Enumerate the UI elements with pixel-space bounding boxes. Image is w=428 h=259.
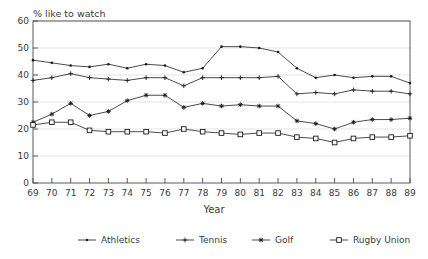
marker-square <box>351 136 356 141</box>
legend-label: Athletics <box>101 235 140 245</box>
marker-dot <box>371 75 374 78</box>
x-tick-label: 71 <box>65 188 76 198</box>
x-tick-label: 76 <box>159 188 171 198</box>
marker-square <box>370 135 375 140</box>
y-tick-label: 10 <box>18 151 30 161</box>
marker-square <box>337 238 342 243</box>
marker-square <box>106 129 111 134</box>
x-tick-label: 78 <box>197 188 209 198</box>
data-series <box>31 45 413 144</box>
marker-dot <box>314 76 317 79</box>
legend-item-athletics[interactable]: Athletics <box>78 235 140 245</box>
marker-square <box>31 123 36 128</box>
y-axis-title: % like to watch <box>33 8 105 19</box>
x-tick-label: 79 <box>216 188 228 198</box>
y-tick-label: 60 <box>18 16 30 26</box>
marker-square <box>50 120 55 125</box>
marker-square <box>182 127 187 132</box>
x-tick-label: 83 <box>291 188 302 198</box>
chart-container: 0102030405060 69707172737475767778798081… <box>0 0 428 259</box>
marker-dot <box>164 64 167 67</box>
x-tick-label: 88 <box>385 188 397 198</box>
x-tick-label: 81 <box>253 188 264 198</box>
x-tick-label: 73 <box>103 188 114 198</box>
marker-dot <box>258 47 261 50</box>
marker-dot <box>390 75 393 78</box>
y-tick-label: 20 <box>18 124 30 134</box>
marker-dot <box>69 64 72 67</box>
marker-square <box>219 131 224 136</box>
marker-square <box>389 135 394 140</box>
x-axis-ticks: 6970717273747576777879808182838485868788… <box>27 178 416 198</box>
marker-square <box>313 136 318 141</box>
x-tick-label: 84 <box>310 188 322 198</box>
legend-item-golf[interactable]: Golf <box>252 235 294 245</box>
marker-dot <box>409 82 412 85</box>
marker-dot <box>201 67 204 70</box>
legend-label: Rugby Union <box>353 235 410 245</box>
marker-dot <box>107 63 110 66</box>
x-tick-label: 87 <box>367 188 378 198</box>
x-tick-label: 70 <box>46 188 58 198</box>
marker-square <box>238 132 243 137</box>
marker-square <box>125 129 130 134</box>
x-tick-label: 75 <box>140 188 151 198</box>
marker-square <box>276 131 281 136</box>
marker-dot <box>352 76 355 79</box>
marker-square <box>408 133 413 138</box>
marker-dot <box>183 71 186 74</box>
marker-square <box>68 120 73 125</box>
legend-label: Tennis <box>198 235 227 245</box>
marker-square <box>332 140 337 145</box>
marker-square <box>87 128 92 133</box>
y-tick-label: 50 <box>18 43 30 53</box>
x-tick-label: 86 <box>348 188 360 198</box>
marker-dot <box>333 74 336 77</box>
x-tick-label: 85 <box>329 188 340 198</box>
series-golf <box>31 93 413 131</box>
y-tick-label: 30 <box>18 97 30 107</box>
line-chart: 0102030405060 69707172737475767778798081… <box>0 0 428 259</box>
marker-dot <box>145 63 148 66</box>
marker-square <box>200 129 205 134</box>
marker-square <box>257 131 262 136</box>
marker-dot <box>126 67 129 70</box>
x-tick-label: 72 <box>84 188 95 198</box>
y-axis-ticks: 0102030405060 <box>18 16 38 188</box>
marker-square <box>163 131 168 136</box>
marker-dot <box>86 239 89 242</box>
y-tick-label: 0 <box>23 178 29 188</box>
marker-dot <box>51 62 54 65</box>
legend-label: Golf <box>275 235 294 245</box>
x-tick-label: 82 <box>272 188 283 198</box>
legend-item-rugby-union[interactable]: Rugby Union <box>330 235 410 245</box>
marker-square <box>144 129 149 134</box>
marker-dot <box>32 59 35 62</box>
marker-square <box>295 135 300 140</box>
x-tick-label: 80 <box>235 188 247 198</box>
marker-dot <box>239 45 242 48</box>
marker-dot <box>296 67 299 70</box>
marker-dot <box>88 66 91 69</box>
marker-dot <box>277 51 280 54</box>
x-tick-label: 77 <box>178 188 189 198</box>
x-tick-label: 74 <box>122 188 134 198</box>
x-axis-title: Year <box>202 204 225 215</box>
y-tick-label: 40 <box>18 70 30 80</box>
chart-legend: AthleticsTennisGolfRugby Union <box>78 235 410 245</box>
x-tick-label: 69 <box>27 188 39 198</box>
marker-dot <box>220 45 223 48</box>
legend-item-tennis[interactable]: Tennis <box>176 235 227 245</box>
x-tick-label: 89 <box>404 188 416 198</box>
